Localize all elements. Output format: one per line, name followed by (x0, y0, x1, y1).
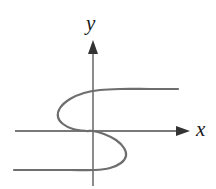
arrow-up-icon (88, 40, 98, 54)
x-axis-label: x (196, 119, 205, 140)
y-axis-label: y (86, 13, 95, 34)
cubic-curve (14, 89, 178, 170)
axes-group (15, 40, 190, 186)
plot-canvas (0, 0, 216, 189)
arrow-right-icon (176, 126, 190, 136)
curve-group (14, 89, 178, 170)
graph-figure: y x (0, 0, 216, 189)
